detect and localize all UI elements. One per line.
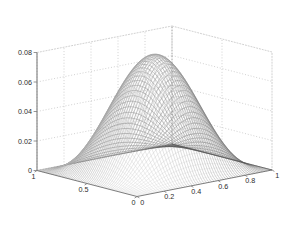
x-tick-label: 0	[140, 198, 144, 207]
y-tick-label: 0	[131, 198, 135, 207]
x-tick-label: 0.6	[218, 182, 228, 191]
x-tick-label: 0.4	[191, 187, 201, 196]
figure-canvas: 00.020.040.060.0800.5100.20.40.60.81	[0, 0, 299, 230]
x-tick-label: 0.8	[245, 176, 255, 185]
x-tick-label: 1	[275, 171, 279, 180]
plot-background	[0, 0, 299, 230]
z-tick-label: 0.08	[18, 48, 32, 57]
y-tick-label: 1	[31, 172, 35, 181]
z-tick-label: 0.04	[18, 107, 32, 116]
z-tick-label: 0.06	[18, 78, 32, 87]
y-tick-label: 0.5	[78, 185, 88, 194]
z-tick-label: 0.02	[18, 137, 32, 146]
x-tick-label: 0.2	[164, 192, 174, 201]
surface-plot-svg: 00.020.040.060.0800.5100.20.40.60.81	[0, 0, 299, 230]
